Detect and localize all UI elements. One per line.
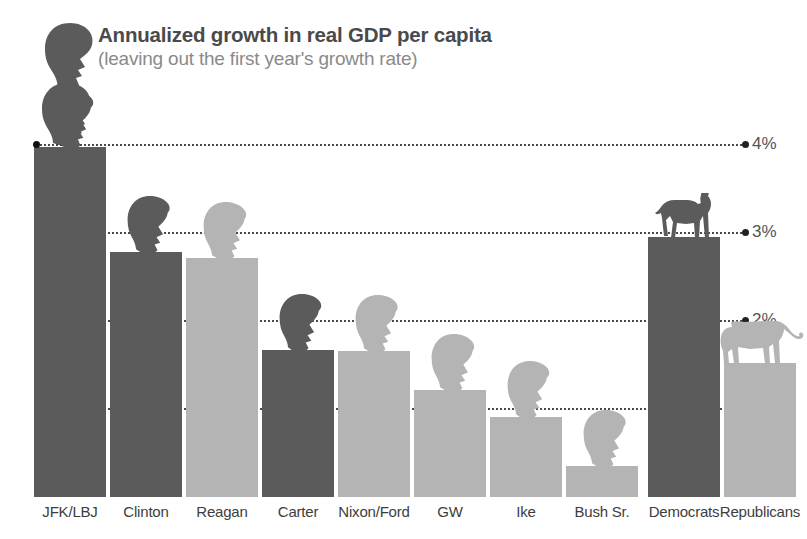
plot-area: 1%2%3%4%	[0, 0, 807, 497]
x-axis-label-republicans: Republicans	[712, 503, 807, 520]
elephant-icon	[718, 321, 804, 365]
bar-ike[interactable]	[490, 417, 562, 497]
bar-republicans[interactable]	[724, 363, 796, 497]
president-head-icon	[578, 408, 634, 470]
president-head-icon	[502, 359, 558, 421]
bar-jfk-lbj[interactable]	[34, 147, 106, 497]
chart-canvas: Annualized growth in real GDP per capita…	[0, 0, 807, 539]
bar-clinton[interactable]	[110, 252, 182, 497]
bar-gw[interactable]	[414, 390, 486, 497]
bar-nixon-ford[interactable]	[338, 351, 410, 497]
bar-carter[interactable]	[262, 350, 334, 497]
gridline-4	[40, 144, 742, 146]
leader-dot	[33, 141, 40, 148]
president-head-icon	[274, 292, 330, 354]
y-axis-tick-label: 4%	[752, 134, 777, 154]
president-head-icon	[426, 332, 482, 394]
bar-bush-sr[interactable]	[566, 466, 638, 497]
tick-dot	[742, 229, 749, 236]
president-head-icon	[122, 194, 178, 256]
president-head-icon	[350, 293, 406, 355]
bar-democrats[interactable]	[648, 237, 720, 497]
tick-dot	[742, 141, 749, 148]
president-head-icon	[46, 89, 102, 151]
bar-reagan[interactable]	[186, 258, 258, 497]
y-axis-tick-label: 3%	[752, 222, 777, 242]
donkey-icon	[654, 193, 724, 239]
president-head-icon	[198, 200, 254, 262]
